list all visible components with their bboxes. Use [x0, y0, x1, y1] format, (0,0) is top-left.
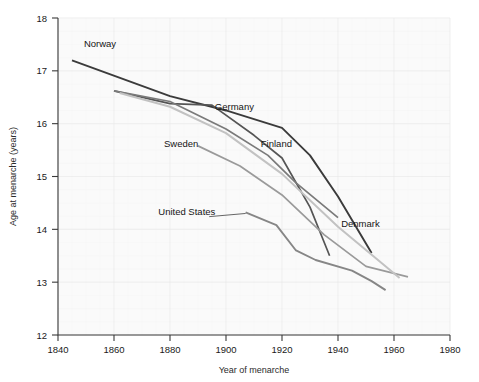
series-label-denmark: Denmark	[341, 218, 380, 229]
y-tick-label: 16	[36, 118, 47, 129]
y-tick-label: 17	[36, 65, 47, 76]
series-label-united-states: United States	[158, 206, 215, 217]
x-tick-label: 1860	[103, 344, 124, 355]
y-tick-label: 18	[36, 13, 47, 24]
y-axis-title: Age at menarche (years)	[8, 127, 18, 226]
x-tick-label: 1900	[215, 344, 236, 355]
series-label-finland: Finland	[261, 138, 292, 149]
x-tick-label: 1980	[439, 344, 460, 355]
x-tick-label: 1880	[159, 344, 180, 355]
series-label-norway: Norway	[84, 38, 116, 49]
x-tick-label: 1920	[271, 344, 292, 355]
y-tick-label: 13	[36, 277, 47, 288]
series-label-sweden: Sweden	[164, 138, 198, 149]
x-tick-label: 1840	[47, 344, 68, 355]
x-tick-label: 1940	[327, 344, 348, 355]
series-label-germany: Germany	[215, 101, 254, 112]
chart-root: 18401860188019001920194019601980 1213141…	[0, 0, 479, 382]
y-tick-label: 12	[36, 330, 47, 341]
x-axis-title: Year of menarche	[219, 365, 290, 375]
x-tick-label: 1960	[383, 344, 404, 355]
menarche-line-chart: 18401860188019001920194019601980 1213141…	[0, 0, 479, 382]
y-tick-label: 14	[36, 224, 47, 235]
y-tick-label: 15	[36, 171, 47, 182]
